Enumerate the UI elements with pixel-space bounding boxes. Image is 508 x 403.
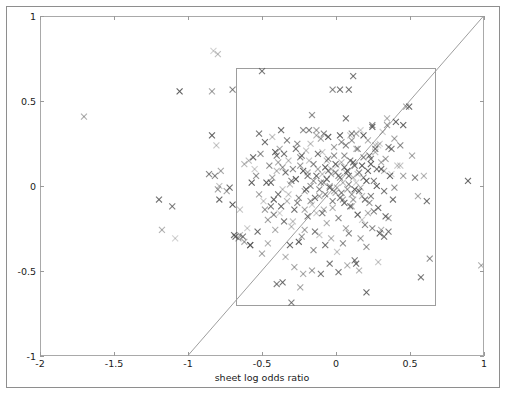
scatter-point: [331, 144, 337, 150]
scatter-point: [316, 186, 322, 192]
scatter-point: [363, 244, 369, 250]
scatter-point: [268, 180, 274, 186]
x-tick-mark: [484, 352, 485, 356]
scatter-point: [371, 208, 377, 214]
scatter-point: [341, 153, 347, 159]
scatter-point: [259, 251, 265, 257]
scatter-point: [390, 197, 396, 203]
scatter-point: [350, 197, 356, 203]
scatter-point: [294, 141, 300, 147]
scatter-point: [381, 188, 387, 194]
y-tick-mark: [480, 356, 484, 357]
scatter-point: [374, 166, 380, 172]
y-tick-mark: [480, 101, 484, 102]
scatter-point: [306, 127, 312, 133]
scatter-point: [384, 115, 390, 121]
scatter-point: [288, 300, 294, 306]
scatter-point: [330, 87, 336, 93]
scatter-point: [269, 134, 275, 140]
scatter-point: [265, 217, 271, 223]
scatter-point: [418, 274, 424, 280]
x-tick-mark: [262, 352, 263, 356]
scatter-point: [286, 191, 292, 197]
y-tick-label: -1: [27, 351, 36, 362]
scatter-point: [368, 161, 374, 167]
x-tick-mark: [410, 352, 411, 356]
y-tick-mark: [480, 186, 484, 187]
scatter-point: [349, 137, 355, 143]
scatter-point: [424, 198, 430, 204]
scatter-point: [291, 207, 297, 213]
scatter-point: [406, 104, 412, 110]
scatter-point: [313, 127, 319, 133]
scatter-point: [280, 279, 286, 285]
scatter-point: [302, 227, 308, 233]
scatter-point: [218, 168, 224, 174]
scatter-point: [262, 139, 268, 145]
scatter-point: [397, 142, 403, 148]
scatter-point: [355, 171, 361, 177]
scatter-point: [330, 205, 336, 211]
scatter-point: [237, 207, 243, 213]
scatter-point: [271, 212, 277, 218]
scatter-point: [262, 207, 268, 213]
x-tick-mark: [336, 16, 337, 20]
y-tick-label: 0: [30, 181, 36, 192]
scatter-point: [427, 256, 433, 262]
scatter-point: [309, 112, 315, 118]
scatter-point: [375, 205, 381, 211]
x-tick-label: -2: [35, 358, 44, 369]
scatter-points-layer: [41, 17, 483, 355]
scatter-point: [388, 171, 394, 177]
scatter-point: [250, 154, 256, 160]
scatter-point: [336, 215, 342, 221]
x-tick-mark: [188, 352, 189, 356]
scatter-point: [210, 48, 216, 54]
scatter-point: [478, 262, 483, 268]
scatter-point: [300, 127, 306, 133]
scatter-point: [274, 168, 280, 174]
scatter-point: [296, 195, 302, 201]
scatter-point: [287, 242, 293, 248]
scatter-point: [328, 166, 334, 172]
y-tick-mark: [40, 101, 44, 102]
scatter-point: [336, 269, 342, 275]
scatter-point: [365, 168, 371, 174]
scatter-point: [375, 259, 381, 265]
scatter-point: [305, 173, 311, 179]
y-tick-mark: [40, 271, 44, 272]
scatter-point: [159, 227, 165, 233]
scatter-point: [169, 203, 175, 209]
x-tick-mark: [336, 352, 337, 356]
x-tick-label: 1: [481, 358, 487, 369]
scatter-point: [343, 169, 349, 175]
scatter-point: [258, 151, 264, 157]
x-axis-label: sheet log odds ratio: [40, 372, 484, 383]
scatter-point: [393, 119, 399, 125]
scatter-point: [299, 153, 305, 159]
scatter-point: [343, 142, 349, 148]
scatter-point: [415, 193, 421, 199]
scatter-point: [421, 173, 427, 179]
scatter-point: [400, 122, 406, 128]
x-tick-label: -1.5: [105, 358, 124, 369]
scatter-point: [247, 242, 253, 248]
scatter-point: [380, 129, 386, 135]
x-tick-label: 0.5: [402, 358, 417, 369]
scatter-point: [227, 185, 233, 191]
scatter-point: [293, 146, 299, 152]
x-tick-mark: [484, 16, 485, 20]
scatter-point: [313, 210, 319, 216]
scatter-point: [356, 268, 362, 274]
scatter-point: [313, 132, 319, 138]
scatter-point: [260, 198, 266, 204]
scatter-point: [308, 141, 314, 147]
x-tick-mark: [114, 352, 115, 356]
scatter-point: [266, 163, 272, 169]
scatter-point: [368, 193, 374, 199]
scatter-point: [230, 202, 236, 208]
scatter-point: [249, 180, 255, 186]
scatter-point: [366, 200, 372, 206]
scatter-point: [284, 198, 290, 204]
scatter-point: [322, 242, 328, 248]
